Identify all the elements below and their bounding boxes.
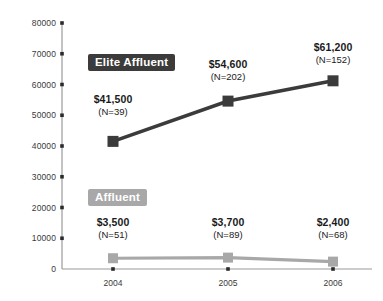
data-label-count: (N=89) [212,229,245,242]
legend-badge-elite-affluent: Elite Affluent [88,54,175,71]
y-axis-tick-label: 30000 [10,172,56,182]
x-axis-tick-mark [226,267,230,271]
y-axis-tick-label: 10000 [10,233,56,243]
data-label-value: $54,600 [209,58,248,71]
data-label-count: (N=202) [209,71,248,84]
y-axis-tick-mark [60,113,64,117]
y-axis-tick-mark [60,52,64,56]
y-axis-tick-label: 0 [10,264,56,274]
series-elite-line [108,75,339,147]
data-label-affluent-2004: $3,500(N=51) [97,216,130,241]
x-axis-tick-label: 2004 [104,278,123,288]
x-axis-tick-mark [111,267,115,271]
data-label-count: (N=39) [94,106,133,119]
y-axis-tick-label: 80000 [10,18,56,28]
x-axis-tick-label: 2005 [219,278,238,288]
data-label-elite-affluent-2006: $61,200(N=152) [314,41,353,66]
data-label-elite-affluent-2005: $54,600(N=202) [209,58,248,83]
y-axis-tick-labels: 0100002000030000400005000060000700008000… [4,0,56,301]
data-label-count: (N=68) [317,229,350,242]
data-label-value: $61,200 [314,41,353,54]
y-axis-tick-mark [60,83,64,87]
series-marker [328,257,338,267]
y-axis-tick-mark [60,236,64,240]
line-chart: 0100002000030000400005000060000700008000… [0,0,383,301]
series-marker [108,136,119,147]
y-axis-tick-label: 70000 [10,49,56,59]
data-label-count: (N=51) [97,229,130,242]
data-label-value: $3,700 [212,216,245,229]
series-marker [328,75,339,86]
data-label-value: $3,500 [97,216,130,229]
series-marker [223,96,234,107]
data-label-elite-affluent-2004: $41,500(N=39) [94,93,133,118]
y-axis-tick-mark [60,206,64,210]
y-axis-tick-label: 40000 [10,141,56,151]
series-line [113,81,333,142]
y-axis-tick-mark [60,175,64,179]
data-label-value: $2,400 [317,216,350,229]
y-axis-tick-label: 60000 [10,80,56,90]
data-label-affluent-2006: $2,400(N=68) [317,216,350,241]
legend-badge-affluent: Affluent [88,189,147,206]
y-axis-tick-label: 20000 [10,203,56,213]
y-axis-tick-label: 50000 [10,110,56,120]
x-axis-tick-label: 2006 [324,278,343,288]
y-axis-tick-mark [60,21,64,25]
data-label-count: (N=152) [314,54,353,67]
series-affluent-line [108,253,338,267]
series-marker [108,253,118,263]
data-label-affluent-2005: $3,700(N=89) [212,216,245,241]
series-marker [223,253,233,263]
data-label-value: $41,500 [94,93,133,106]
x-axis-tick-mark [331,267,335,271]
y-axis-tick-mark [60,144,64,148]
